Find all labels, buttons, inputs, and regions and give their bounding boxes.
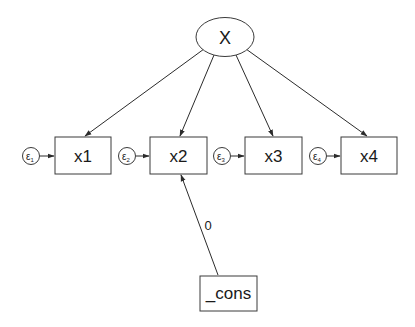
observed-label: x2 <box>170 147 188 166</box>
loading-edges <box>85 49 367 136</box>
error-node-e1[interactable]: ε1 <box>23 148 40 165</box>
error-node-e4[interactable]: ε4 <box>310 148 327 165</box>
path-cons-x2 <box>181 175 218 275</box>
path-X-x4 <box>246 49 367 136</box>
path-X-x1 <box>85 49 204 136</box>
observed-node-x3[interactable]: x3 <box>245 137 302 174</box>
observed-label: x3 <box>265 147 283 166</box>
cons-path-coefficient: 0 <box>204 218 211 233</box>
observed-node-x1[interactable]: x1 <box>55 137 111 174</box>
error-node-e3[interactable]: ε3 <box>214 148 231 165</box>
observed-node-x4[interactable]: x4 <box>341 137 397 174</box>
observed-label: x4 <box>360 147 378 166</box>
error-node-e2[interactable]: ε2 <box>119 148 136 165</box>
observed-label: x1 <box>74 147 92 166</box>
latent-node-X[interactable]: X <box>196 18 254 57</box>
latent-label: X <box>219 28 231 48</box>
path-X-x2 <box>180 55 214 136</box>
path-X-x3 <box>236 55 273 136</box>
constant-node[interactable]: _cons <box>200 276 257 311</box>
observed-node-x2[interactable]: x2 <box>150 137 207 174</box>
sem-diagram: X ε1 ε2 ε3 ε4 x1 x2 x3 x4 0 _con <box>0 0 415 327</box>
constant-label: _cons <box>205 284 251 303</box>
